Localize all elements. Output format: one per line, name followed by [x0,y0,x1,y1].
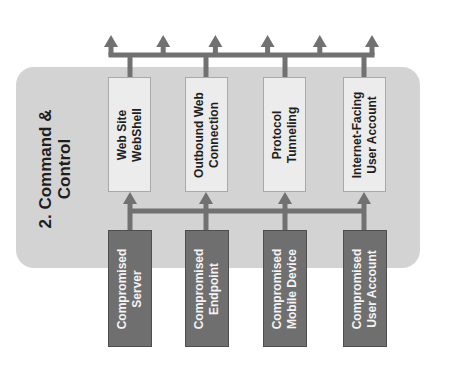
source-box-compromised-endpoint: Compromised Endpoint [185,230,229,347]
source-label-line-1: Compromised [270,248,285,329]
diagram-canvas: 2. Command & Control Web Site WebShell O… [0,0,453,387]
channel-box-protocol-tunneling: Protocol Tunneling [263,77,306,192]
arrow-up-icon [278,192,292,204]
arrow-up-icon [357,192,371,204]
channel-box-internet-facing-user-account: Internet-Facing User Account [343,77,386,192]
arrow-up-icon [365,35,379,47]
source-label-line-2: Endpoint [207,248,222,329]
source-box-compromised-user-account: Compromised User Account [343,230,387,347]
channel-label-line-1: Outbound Web [192,92,207,178]
source-label-line-2: Mobile Device [285,248,300,329]
channel-label-line-2: User Account [365,91,380,178]
arrow-up-icon [104,35,118,47]
source-box-compromised-mobile-device: Compromised Mobile Device [263,230,307,347]
source-label-line-1: Compromised [350,248,365,329]
channel-label-line-1: Protocol [270,106,285,162]
channel-label-line-1: Internet-Facing [350,91,365,178]
channel-label-line-2: Tunneling [285,106,300,162]
source-box-compromised-server: Compromised Server [108,230,152,347]
source-label-line-1: Compromised [115,248,130,329]
channel-label-line-2: WebShell [130,108,145,162]
channel-box-outbound-web-connection: Outbound Web Connection [185,77,228,192]
arrow-up-icon [199,192,213,204]
channel-label-line-2: Connection [207,92,222,178]
source-label-line-1: Compromised [192,248,207,329]
source-label-line-2: Server [130,248,145,329]
source-label-line-2: User Account [365,248,380,329]
channel-label-line-1: Web Site [115,108,130,162]
arrow-up-icon [313,35,327,47]
arrow-up-icon [261,35,275,47]
arrow-up-icon [123,192,137,204]
arrow-up-icon [208,35,222,47]
channel-box-web-site-webshell: Web Site WebShell [108,77,151,192]
arrow-up-icon [156,35,170,47]
